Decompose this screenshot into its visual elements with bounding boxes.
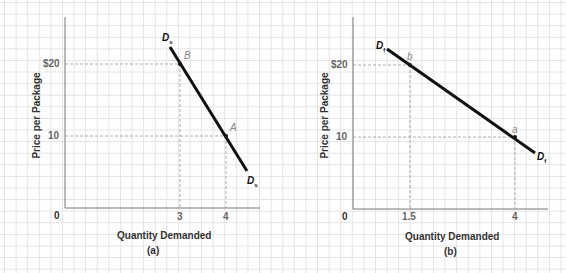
- x-tick-4-a: 4: [223, 211, 229, 222]
- point-b: [408, 63, 412, 67]
- demand-curve-s: [170, 47, 247, 171]
- curve-label-bottom-a: Ds: [247, 175, 258, 188]
- curve-label-top-a: Ds: [162, 32, 173, 45]
- x-tick-1-5-b: 1.5: [402, 211, 416, 222]
- point-B: [178, 62, 182, 66]
- point-label-b: b: [407, 51, 413, 62]
- y-axis-label-b: Price per Package: [319, 61, 330, 171]
- point-A: [224, 134, 228, 138]
- panel-label-a: (a): [147, 245, 159, 256]
- origin-label-a: 0: [54, 210, 60, 221]
- x-axis-label-a: Quantity Demanded: [117, 230, 211, 241]
- y-tick-10-a: 10: [48, 130, 59, 141]
- y-tick-10-b: 10: [336, 131, 347, 142]
- x-tick-3-a: 3: [177, 211, 183, 222]
- curve-label-bottom-b: Df: [537, 151, 546, 164]
- origin-label-b: 0: [342, 211, 348, 222]
- point-label-a: a: [512, 124, 518, 135]
- point-label-A: A: [230, 122, 237, 133]
- y-tick-20-a: $20: [43, 58, 60, 69]
- x-tick-4-b: 4: [512, 211, 518, 222]
- y-tick-20-b: $20: [331, 59, 348, 70]
- point-label-B: B: [184, 50, 191, 61]
- x-axis-label-b: Quantity Demanded: [405, 231, 499, 242]
- curve-label-top-b: Df: [376, 40, 385, 53]
- panel-a-plot: [65, 17, 260, 208]
- y-axis-label-a: Price per Package: [31, 61, 42, 171]
- point-a: [513, 135, 517, 139]
- panel-label-b: (b): [444, 246, 457, 257]
